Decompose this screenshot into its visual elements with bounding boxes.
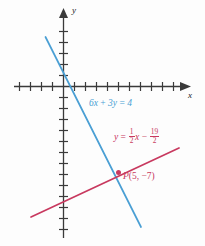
red-frac1-denominator: 2 bbox=[129, 136, 135, 145]
red-frac2-numerator: 19 bbox=[150, 128, 159, 136]
point-close-paren: ) bbox=[152, 171, 155, 181]
equation-label-blue: 6x + 3y = 4 bbox=[89, 99, 132, 109]
equation-label-red: y = 12x − 192 bbox=[114, 128, 160, 144]
red-minus-operator: − bbox=[139, 132, 149, 142]
line-red-half-x-minus-19-over-2 bbox=[31, 148, 179, 217]
coordinate-plane bbox=[0, 0, 205, 246]
graph-figure: y x 6x + 3y = 4 y = 12x − 192 P(5, −7) bbox=[0, 0, 205, 246]
intersection-point-marker bbox=[116, 170, 121, 175]
y-axis-label: y bbox=[72, 6, 76, 15]
point-y-value: −7 bbox=[141, 171, 151, 181]
blue-plus-operator: + bbox=[98, 98, 108, 108]
blue-rhs-value: 4 bbox=[127, 98, 132, 108]
red-fraction-nineteen-halves: 192 bbox=[150, 128, 159, 144]
x-axis-label: x bbox=[188, 91, 192, 100]
red-equals-operator: = bbox=[118, 132, 128, 142]
blue-equals-operator: = bbox=[117, 98, 127, 108]
point-label-p: P(5, −7) bbox=[123, 172, 155, 182]
red-fraction-one-half: 12 bbox=[129, 128, 135, 144]
y-axis-arrowhead bbox=[59, 8, 68, 18]
red-frac2-denominator: 2 bbox=[150, 136, 159, 145]
red-frac1-numerator: 1 bbox=[129, 128, 135, 136]
